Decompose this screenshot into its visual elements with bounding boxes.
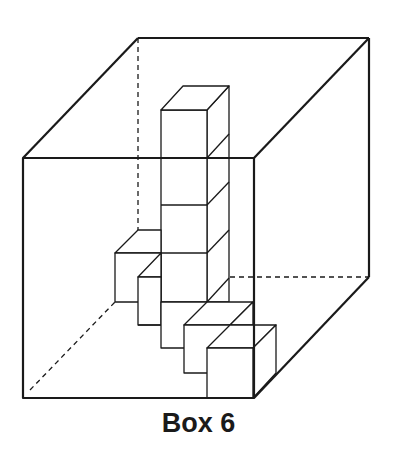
box-diagram	[0, 0, 397, 465]
stacked-cubes	[115, 86, 276, 398]
figure-caption: Box 6	[0, 408, 397, 439]
